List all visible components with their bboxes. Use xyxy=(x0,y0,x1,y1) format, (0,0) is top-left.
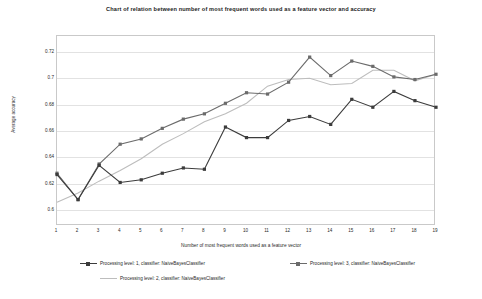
data-point-marker xyxy=(182,118,185,121)
data-point-marker xyxy=(224,102,227,105)
data-point-marker xyxy=(371,106,374,109)
data-point-marker xyxy=(371,65,374,68)
legend-swatch-icon xyxy=(80,260,97,267)
data-point-marker xyxy=(434,106,437,109)
data-point-marker xyxy=(413,99,416,102)
data-point-marker xyxy=(140,137,143,140)
x-axis-title: Number of most frequent words used as a … xyxy=(0,243,482,248)
x-tick-label: 4 xyxy=(109,228,129,233)
data-point-marker xyxy=(350,59,353,62)
series-line xyxy=(57,91,436,199)
data-point-marker xyxy=(203,168,206,171)
x-tick-label: 19 xyxy=(425,228,445,233)
x-tick-label: 12 xyxy=(278,228,298,233)
data-point-marker xyxy=(287,119,290,122)
data-point-marker xyxy=(224,125,227,128)
data-point-marker xyxy=(329,123,332,126)
data-point-marker xyxy=(245,91,248,94)
data-point-marker xyxy=(392,75,395,78)
legend-label: Processing level: 3, classifier: NaiveBa… xyxy=(310,261,415,266)
data-point-marker xyxy=(266,136,269,139)
data-point-marker xyxy=(434,73,437,76)
series-lines xyxy=(57,36,436,226)
x-tick-label: 10 xyxy=(236,228,256,233)
x-tick-label: 7 xyxy=(172,228,192,233)
legend-item[interactable]: Processing level: 3, classifier: NaiveBa… xyxy=(290,260,415,267)
chart-container: Chart of relation between number of most… xyxy=(0,0,482,299)
data-point-marker xyxy=(76,198,79,201)
x-tick-label: 11 xyxy=(257,228,277,233)
data-point-marker xyxy=(308,115,311,118)
data-point-marker xyxy=(329,74,332,77)
x-tick-label: 17 xyxy=(383,228,403,233)
legend-swatch-icon xyxy=(290,260,307,267)
legend-label: Processing level: 1, classifier: NaiveBa… xyxy=(100,261,205,266)
data-point-marker xyxy=(119,181,122,184)
x-tick-label: 1 xyxy=(46,228,66,233)
data-point-marker xyxy=(266,92,269,95)
data-point-marker xyxy=(55,173,58,176)
x-tick-label: 16 xyxy=(362,228,382,233)
data-point-marker xyxy=(308,56,311,59)
x-tick-label: 15 xyxy=(341,228,361,233)
legend-swatch-icon xyxy=(100,275,117,282)
data-point-marker xyxy=(182,166,185,169)
x-tick-label: 14 xyxy=(320,228,340,233)
chart-legend: Processing level: 1, classifier: NaiveBa… xyxy=(56,256,435,292)
x-tick-label: 2 xyxy=(67,228,87,233)
x-tick-label: 6 xyxy=(151,228,171,233)
y-axis-title: Average accuracy xyxy=(11,80,16,150)
data-point-marker xyxy=(140,178,143,181)
legend-item[interactable]: Processing level: 2, classifier: NaiveBa… xyxy=(100,275,225,282)
data-point-marker xyxy=(245,136,248,139)
legend-item[interactable]: Processing level: 1, classifier: NaiveBa… xyxy=(80,260,205,267)
x-tick-label: 5 xyxy=(130,228,150,233)
plot-area xyxy=(56,35,435,225)
series-line xyxy=(57,57,436,200)
data-point-marker xyxy=(287,81,290,84)
x-tick-label: 8 xyxy=(193,228,213,233)
legend-label: Processing level: 2, classifier: NaiveBa… xyxy=(120,276,225,281)
chart-title: Chart of relation between number of most… xyxy=(0,6,482,12)
data-point-marker xyxy=(161,172,164,175)
data-point-marker xyxy=(413,78,416,81)
data-point-marker xyxy=(350,98,353,101)
x-tick-label: 13 xyxy=(299,228,319,233)
data-point-marker xyxy=(161,127,164,130)
x-axis-tick-labels: 12345678910111213141516171819 xyxy=(56,228,435,240)
data-point-marker xyxy=(203,112,206,115)
data-point-marker xyxy=(119,143,122,146)
x-tick-label: 9 xyxy=(214,228,234,233)
x-tick-label: 18 xyxy=(404,228,424,233)
x-tick-label: 3 xyxy=(88,228,108,233)
data-point-marker xyxy=(392,90,395,93)
data-point-marker xyxy=(98,164,101,167)
y-axis-title-wrap: Average accuracy xyxy=(0,0,60,260)
